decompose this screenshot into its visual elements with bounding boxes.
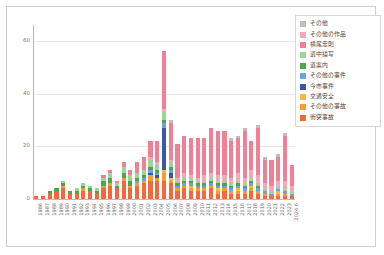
legend-label: 衝突事故: [310, 115, 334, 121]
bar-segment: [283, 196, 287, 199]
bar-column[interactable]: [148, 141, 152, 199]
bar-column[interactable]: [290, 165, 294, 199]
bar-segment: [88, 191, 92, 199]
bar-column[interactable]: [283, 133, 287, 199]
bar-segment: [249, 191, 253, 199]
bar-segment: [269, 160, 273, 186]
bar-segment: [209, 128, 213, 173]
bar-column[interactable]: [249, 141, 253, 199]
bar-segment: [290, 196, 294, 199]
bar-column[interactable]: [41, 196, 45, 199]
legend-item[interactable]: 道中描写: [300, 50, 377, 60]
bar-column[interactable]: [229, 138, 233, 199]
bar-segment: [162, 173, 166, 181]
x-axis-line: [33, 199, 295, 200]
bar-segment: [75, 194, 79, 199]
bar-column[interactable]: [122, 162, 126, 199]
bar-column[interactable]: [101, 175, 105, 199]
legend-item[interactable]: その他の事件: [300, 71, 377, 81]
bar-column[interactable]: [222, 131, 226, 199]
bar-column[interactable]: [189, 138, 193, 199]
bar-segment: [196, 191, 200, 199]
bar-column[interactable]: [175, 144, 179, 199]
bar-column[interactable]: [276, 154, 280, 199]
bar-column[interactable]: [263, 157, 267, 199]
bar-column[interactable]: [135, 162, 139, 199]
bar-segment: [202, 138, 206, 175]
bar-column[interactable]: [162, 51, 166, 199]
bar-column[interactable]: [34, 196, 38, 199]
legend-swatch-icon: [300, 32, 306, 38]
legend-label: 横尾忠則: [310, 42, 334, 48]
x-tick-label: 2019: [260, 203, 265, 216]
x-tick-label: 2024.6: [294, 203, 299, 221]
bar-column[interactable]: [216, 131, 220, 199]
bar-segment: [216, 194, 220, 199]
bar-column[interactable]: [155, 141, 159, 199]
x-tick-label: 2011: [206, 203, 211, 216]
bar-segment: [269, 196, 273, 199]
bar-column[interactable]: [54, 188, 58, 199]
x-tick-label: 2009: [193, 203, 198, 216]
bar-segment: [249, 170, 253, 178]
bar-series-container: [33, 25, 295, 199]
x-tick-label: 2010: [200, 203, 205, 216]
bar-column[interactable]: [142, 157, 146, 199]
bar-column[interactable]: [202, 138, 206, 199]
bar-segment: [283, 181, 287, 189]
legend-item[interactable]: その他の事故: [300, 102, 377, 112]
x-tick-label: 1990: [65, 203, 70, 216]
legend-swatch-icon: [300, 104, 306, 110]
plot-area: 0204060 19861987198819891990199119921993…: [33, 25, 295, 199]
bar-column[interactable]: [269, 160, 273, 200]
x-tick-label: 2021: [273, 203, 278, 216]
legend-item[interactable]: 今市事件: [300, 81, 377, 91]
bar-segment: [229, 194, 233, 199]
legend-item[interactable]: 交通安全: [300, 92, 377, 102]
bar-segment: [135, 186, 139, 199]
bar-column[interactable]: [48, 191, 52, 199]
x-tick-label: 2000: [132, 203, 137, 216]
legend-item[interactable]: 道案内: [300, 61, 377, 71]
bar-column[interactable]: [236, 136, 240, 199]
bar-column[interactable]: [243, 128, 247, 199]
x-tick-label: 1987: [45, 203, 50, 216]
legend-item[interactable]: その他: [300, 19, 377, 29]
bar-column[interactable]: [81, 183, 85, 199]
bar-column[interactable]: [61, 181, 65, 199]
bar-column[interactable]: [88, 186, 92, 199]
bar-column[interactable]: [75, 188, 79, 199]
bar-segment: [236, 173, 240, 181]
legend-item[interactable]: 横尾忠則: [300, 40, 377, 50]
y-tick-label: 0: [27, 196, 31, 202]
bar-column[interactable]: [68, 191, 72, 199]
bar-column[interactable]: [209, 128, 213, 199]
bar-segment: [81, 191, 85, 199]
bar-segment: [162, 181, 166, 199]
x-tick-label: 2012: [213, 203, 218, 216]
bar-column[interactable]: [169, 120, 173, 199]
legend-swatch-icon: [300, 63, 306, 69]
bar-segment: [209, 188, 213, 199]
bar-segment: [34, 196, 38, 199]
bar-column[interactable]: [182, 136, 186, 199]
x-tick-label: 2023: [287, 203, 292, 216]
bar-column[interactable]: [115, 181, 119, 199]
legend-item[interactable]: 衝突事故: [300, 113, 377, 123]
bar-segment: [236, 138, 240, 172]
bar-segment: [243, 131, 247, 178]
legend-item[interactable]: その他の作品: [300, 29, 377, 39]
bar-segment: [243, 194, 247, 199]
x-tick-label: 2016: [240, 203, 245, 216]
bar-column[interactable]: [256, 125, 260, 199]
legend-swatch-icon: [300, 21, 306, 27]
bar-column[interactable]: [128, 170, 132, 199]
x-tick-label: 1993: [85, 203, 90, 216]
bar-column[interactable]: [196, 138, 200, 199]
bar-column[interactable]: [95, 188, 99, 199]
bar-segment: [68, 194, 72, 199]
x-tick-label: 1989: [59, 203, 64, 216]
x-tick-label: 2013: [220, 203, 225, 216]
legend-label: その他の事故: [310, 104, 346, 110]
bar-column[interactable]: [108, 170, 112, 199]
